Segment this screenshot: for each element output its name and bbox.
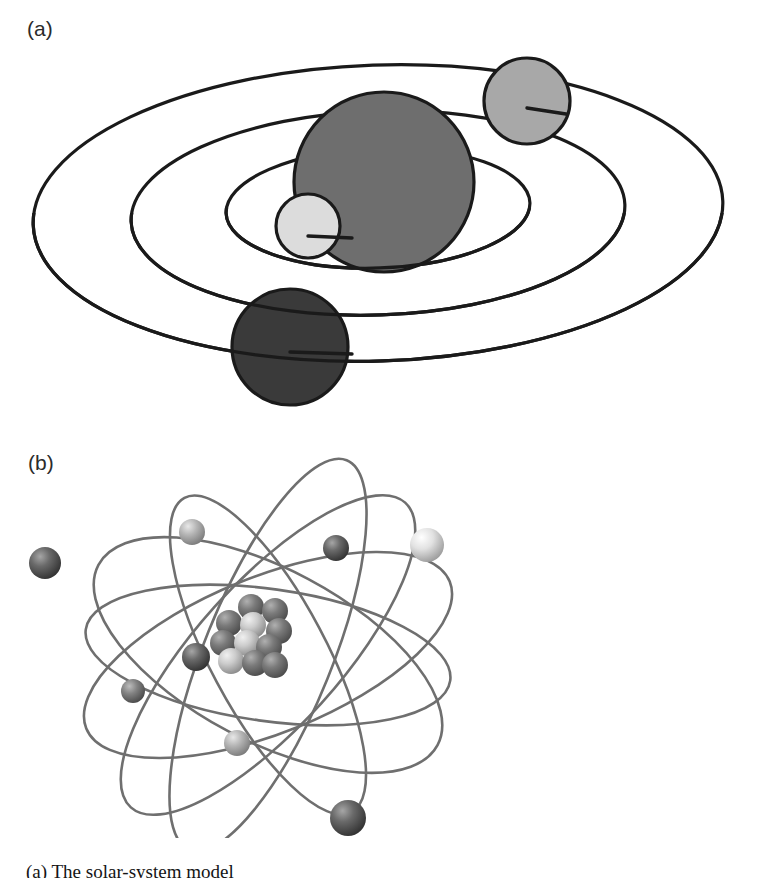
panel-b-3d-atom-model: (b): [0, 438, 757, 838]
electron-right-bright: [410, 528, 444, 562]
panel-a-canvas: [0, 0, 757, 438]
nucleon-cluster: [210, 594, 292, 678]
electron-left-mid: [121, 679, 145, 703]
electron-light-circle: [276, 194, 340, 258]
nucleon-neutron: [218, 648, 244, 674]
figure-caption: (a) The solar-system model: [26, 862, 234, 878]
panel-a-solar-system-model: (a): [0, 0, 757, 438]
panel-a-label: (a): [27, 17, 53, 41]
electron-bottom-dark: [330, 800, 366, 836]
panel-b-electrons: [29, 519, 444, 836]
panel-b-canvas: [0, 438, 757, 838]
electron-dark-circle: [232, 289, 348, 405]
tail-electron-light: [308, 236, 352, 238]
panel-a-bodies: [232, 58, 570, 405]
figure-atomic-models: (a): [0, 0, 757, 878]
electron-upper-left-dark: [29, 547, 61, 579]
electron-top-light: [179, 519, 205, 545]
electron-mid-gray-circle: [484, 58, 570, 144]
panel-b-label: (b): [28, 451, 54, 475]
electron-inner-dark: [182, 643, 210, 671]
electron-upper-mid-dark: [323, 535, 349, 561]
electron-lower-mid-light: [224, 730, 250, 756]
nucleon-proton: [262, 652, 288, 678]
tail-electron-dark: [290, 352, 352, 354]
